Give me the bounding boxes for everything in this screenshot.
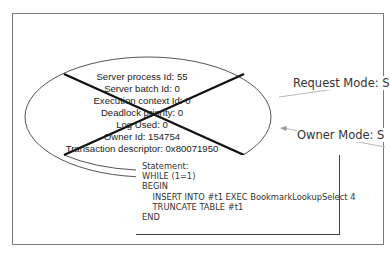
server-process-id: Server process Id: 55 bbox=[62, 71, 222, 83]
log-used: Log Used: 0 bbox=[62, 119, 222, 131]
tooltip-connector bbox=[64, 155, 136, 170]
tooltip-line: INSERT INTO #t1 EXEC BookmarkLookupSelec… bbox=[142, 192, 339, 202]
process-node-details: Server process Id: 55 Server batch Id: 0… bbox=[62, 71, 222, 155]
owner-mode-label: Owner Mode: S bbox=[297, 128, 384, 142]
tooltip-line: END bbox=[142, 212, 339, 222]
server-batch-id: Server batch Id: 0 bbox=[62, 83, 222, 95]
request-mode-label: Request Mode: S bbox=[293, 76, 390, 90]
transaction-descriptor: Transaction descriptor: 0x80071950 bbox=[62, 143, 222, 155]
owner-edge-arrow-icon bbox=[280, 126, 287, 131]
deadlock-priority: Deadlock priority: 0 bbox=[62, 107, 222, 119]
owner-id: Owner Id: 154754 bbox=[62, 131, 222, 143]
tooltip-line: Statement: bbox=[142, 161, 339, 171]
tooltip-line: BEGIN bbox=[142, 181, 339, 191]
execution-context-id: Execution context Id: 0 bbox=[62, 95, 222, 107]
tooltip-line: WHILE (1=1) bbox=[142, 171, 339, 181]
tooltip-line: TRUNCATE TABLE #t1 bbox=[142, 202, 339, 212]
statement-tooltip: Statement: WHILE (1=1) BEGIN INSERT INTO… bbox=[136, 155, 340, 235]
